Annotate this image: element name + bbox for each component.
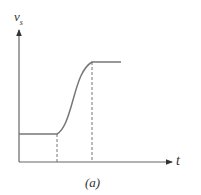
chart-canvas: [0, 0, 201, 195]
figure-caption: (a): [85, 175, 100, 191]
x-axis-label: t: [176, 153, 180, 169]
y-axis-label-sub: s: [20, 18, 23, 27]
signal-curve: [19, 62, 121, 134]
y-axis-label: vs: [14, 9, 23, 27]
